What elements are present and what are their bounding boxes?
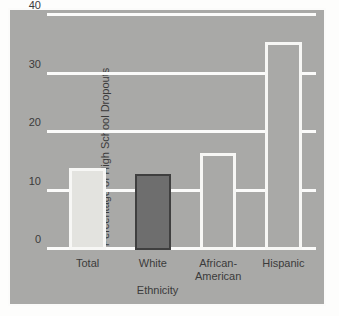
plot-area: 010203040 TotalWhiteAfrican- AmericanHis… <box>55 16 316 250</box>
x-tick-label: African- American <box>195 257 241 282</box>
y-tick-label: 40 <box>29 0 41 11</box>
bar <box>69 168 106 250</box>
bar <box>135 174 172 250</box>
y-tick-label: 20 <box>29 117 41 128</box>
bar <box>200 153 237 250</box>
plot-panel: Percentage of High School Dropouts 01020… <box>8 8 326 306</box>
y-tick-label: 0 <box>35 234 41 245</box>
x-tick-label: White <box>139 257 167 270</box>
y-tick-label: 30 <box>29 58 41 69</box>
bar-chart-figure: Percentage of High School Dropouts 01020… <box>0 0 339 316</box>
x-axis-title: Ethnicity <box>137 284 179 296</box>
x-tick-label: Total <box>76 257 99 270</box>
bars-group <box>55 16 316 250</box>
bar <box>265 42 302 250</box>
x-tick-label: Hispanic <box>262 257 304 270</box>
y-tick-label: 10 <box>29 175 41 186</box>
